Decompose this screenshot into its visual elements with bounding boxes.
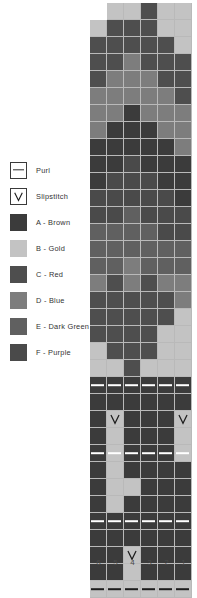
chart-cell	[90, 20, 107, 37]
chart-cell	[141, 3, 158, 20]
chart-cell	[107, 54, 124, 71]
chart-cell	[107, 394, 124, 411]
chart-cell	[107, 513, 124, 530]
purl-dash-icon	[91, 452, 104, 454]
chart-cell	[175, 343, 192, 360]
purl-dash-icon	[125, 520, 138, 522]
chart-cell	[124, 105, 141, 122]
chart-cell	[158, 377, 175, 394]
chart-cell	[90, 156, 107, 173]
legend-item: B - Gold	[10, 235, 88, 261]
chart-cell	[107, 411, 124, 428]
legend-item-label: B - Gold	[36, 244, 65, 253]
legend-item: E - Dark Green	[10, 313, 88, 339]
chart-cell	[124, 394, 141, 411]
chart-cell	[124, 139, 141, 156]
chart-cell	[141, 224, 158, 241]
chart-cell	[175, 20, 192, 37]
chart-cell	[107, 530, 124, 547]
legend-item: Purl	[10, 157, 88, 183]
chart-cell	[90, 207, 107, 224]
chart-cell	[158, 496, 175, 513]
chart-cell	[141, 394, 158, 411]
legend-item-label: E - Dark Green	[36, 322, 89, 331]
chart-cell	[90, 462, 107, 479]
chart-cell	[175, 292, 192, 309]
chart-cell	[158, 292, 175, 309]
chart-cell	[124, 428, 141, 445]
chart-cell	[124, 3, 141, 20]
chart-cell	[175, 3, 192, 20]
chart-cell	[158, 156, 175, 173]
chart-cell	[107, 309, 124, 326]
chart-cell	[124, 445, 141, 462]
chart-cell	[124, 343, 141, 360]
purl-dash-icon	[142, 520, 155, 522]
chart-cell	[158, 37, 175, 54]
chart-cell	[90, 54, 107, 71]
chart-cell	[124, 360, 141, 377]
chart-cell	[90, 258, 107, 275]
chart-cell	[107, 292, 124, 309]
chart-cell	[141, 275, 158, 292]
chart-cell	[158, 71, 175, 88]
purl-dash-icon	[159, 520, 172, 522]
chart-cell	[158, 105, 175, 122]
chart-cell	[175, 326, 192, 343]
chart-cell	[107, 326, 124, 343]
chart-cell	[141, 445, 158, 462]
chart-cell	[124, 88, 141, 105]
purl-dash-icon	[125, 588, 138, 590]
chart-cell	[175, 88, 192, 105]
chart-cell	[90, 377, 107, 394]
chart-cell	[124, 496, 141, 513]
chart-cell	[90, 37, 107, 54]
chart-cell	[107, 275, 124, 292]
chart-cell	[175, 37, 192, 54]
chart-cell	[124, 326, 141, 343]
purl-dash-icon	[176, 520, 189, 522]
chart-cell	[175, 122, 192, 139]
chart-cell	[107, 428, 124, 445]
chart-cell	[175, 360, 192, 377]
chart-cell	[158, 462, 175, 479]
chart-cell	[175, 394, 192, 411]
chart-cell	[175, 71, 192, 88]
chart-cell	[175, 479, 192, 496]
chart-cell	[175, 173, 192, 190]
chart-cell	[175, 411, 192, 428]
chart-cell	[90, 343, 107, 360]
chart-cell	[158, 122, 175, 139]
slipstitch-v-icon	[10, 188, 27, 205]
chart-cell	[90, 394, 107, 411]
chart-cell	[175, 275, 192, 292]
chart-cell	[175, 513, 192, 530]
chart-cell	[141, 156, 158, 173]
chart-cell	[158, 20, 175, 37]
chart-cell	[107, 241, 124, 258]
chart-cell	[175, 530, 192, 547]
chart-cell	[141, 530, 158, 547]
chart-cell	[124, 258, 141, 275]
chart-cell	[175, 462, 192, 479]
purl-dash-icon	[159, 452, 172, 454]
chart-cell	[175, 445, 192, 462]
chart-cell	[124, 292, 141, 309]
chart-cell	[124, 190, 141, 207]
chart-grid	[90, 3, 192, 598]
chart-cell	[141, 377, 158, 394]
chart-cell	[141, 20, 158, 37]
chart-cell	[124, 122, 141, 139]
chart-cell	[90, 428, 107, 445]
column-number: 6	[90, 558, 107, 567]
purl-dash-icon	[159, 384, 172, 386]
chart-cell	[107, 190, 124, 207]
legend-item-label: D - Blue	[36, 296, 65, 305]
purl-dash-icon	[176, 452, 189, 454]
chart-cell	[141, 292, 158, 309]
chart-cell	[158, 54, 175, 71]
chart-cell	[141, 139, 158, 156]
chart-cell	[124, 275, 141, 292]
chart-cell	[141, 207, 158, 224]
color-swatch-icon	[10, 344, 27, 361]
